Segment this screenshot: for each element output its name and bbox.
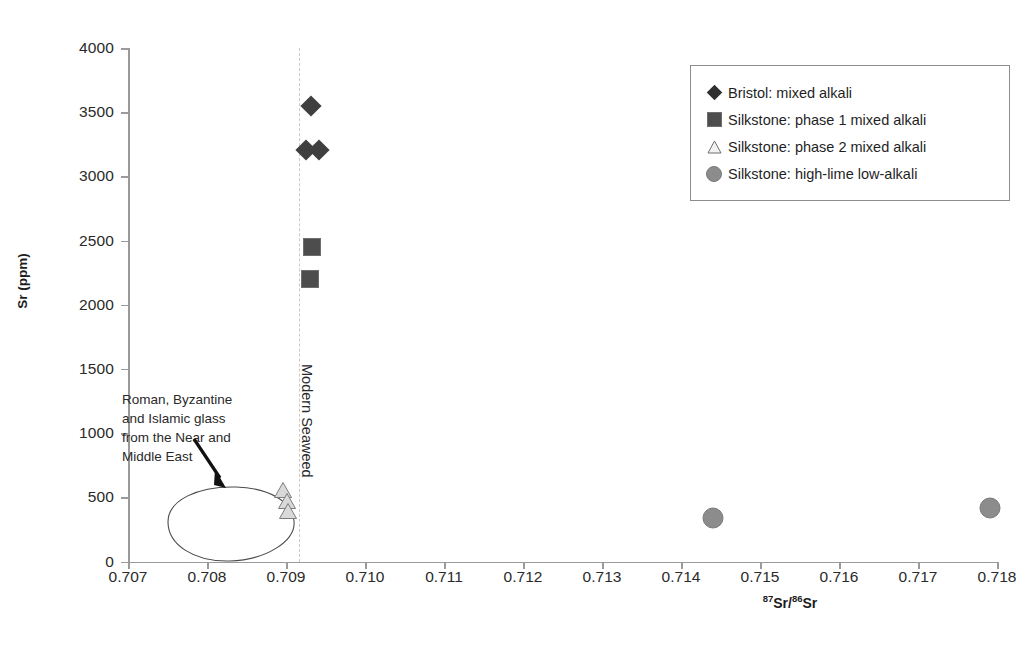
legend-item-square[interactable]: Silkstone: phase 1 mixed alkali [705, 106, 997, 133]
legend-circle-icon [705, 165, 723, 183]
legend-item-label: Silkstone: phase 1 mixed alkali [728, 112, 926, 128]
legend-item-diamond[interactable]: Bristol: mixed alkali [705, 79, 997, 106]
y-tick-label: 4000 [79, 39, 114, 57]
x-tick-label: 0.710 [346, 568, 385, 586]
x-tick-label: 0.711 [425, 568, 463, 586]
x-tick-label: 0.707 [109, 568, 148, 586]
x-tick-label: 0.713 [583, 568, 622, 586]
y-tick-mark [121, 112, 128, 114]
data-point-circle [703, 507, 724, 528]
data-point-circle [979, 498, 1000, 519]
data-point-triangle [279, 503, 298, 520]
y-tick-mark [121, 48, 128, 50]
data-point-diamond [309, 139, 330, 160]
legend-item-label: Silkstone: phase 2 mixed alkali [728, 139, 926, 155]
y-tick-mark [121, 369, 128, 371]
y-tick-mark [121, 176, 128, 178]
y-tick-label: 1000 [79, 424, 114, 442]
data-point-square [301, 270, 319, 288]
legend-square-icon [705, 111, 723, 129]
y-tick-label: 1500 [79, 360, 114, 378]
chart-canvas: 05001000150020002500300035004000 0.7070.… [0, 0, 1035, 655]
chart-legend: Bristol: mixed alkaliSilkstone: phase 1 … [690, 65, 1010, 201]
x-tick-label: 0.712 [504, 568, 543, 586]
legend-triangle-icon [705, 138, 723, 156]
x-tick-label: 0.716 [820, 568, 859, 586]
y-tick-label: 3000 [79, 167, 114, 185]
annotation-arrow-icon [190, 436, 240, 492]
y-tick-label: 3500 [79, 103, 114, 121]
x-tick-label: 0.708 [188, 568, 227, 586]
x-axis-title-mid: Sr/ [773, 595, 792, 611]
legend-item-circle[interactable]: Silkstone: high-lime low-alkali [705, 160, 997, 187]
data-point-diamond [301, 95, 322, 116]
legend-glyph [706, 85, 722, 101]
y-tick-label: 2000 [79, 296, 114, 314]
y-tick-mark [121, 241, 128, 243]
y-tick-mark [121, 562, 128, 564]
y-tick-label: 500 [88, 488, 114, 506]
y-tick-mark [121, 497, 128, 499]
y-axis-line [128, 48, 130, 562]
x-tick-label: 0.715 [741, 568, 780, 586]
x-tick-label: 0.714 [662, 568, 701, 586]
legend-diamond-icon [705, 84, 723, 102]
legend-item-label: Silkstone: high-lime low-alkali [728, 166, 917, 182]
y-axis-title: Sr (ppm) [15, 253, 30, 309]
legend-glyph [707, 112, 722, 127]
x-axis-title: 87Sr/86Sr [763, 593, 818, 611]
x-tick-label: 0.717 [899, 568, 938, 586]
legend-item-triangle[interactable]: Silkstone: phase 2 mixed alkali [705, 133, 997, 160]
x-axis-title-sup-86: 86 [792, 593, 803, 604]
x-axis-title-end: Sr [803, 595, 818, 611]
x-axis-title-sup-87: 87 [763, 593, 774, 604]
data-point-square [303, 238, 321, 256]
x-tick-label: 0.718 [978, 568, 1017, 586]
legend-glyph [706, 166, 722, 182]
y-tick-label: 2500 [79, 232, 114, 250]
y-tick-mark [121, 305, 128, 307]
legend-item-label: Bristol: mixed alkali [728, 85, 852, 101]
x-tick-label: 0.709 [267, 568, 306, 586]
modern-seaweed-label: Modern Seaweed [299, 362, 315, 478]
